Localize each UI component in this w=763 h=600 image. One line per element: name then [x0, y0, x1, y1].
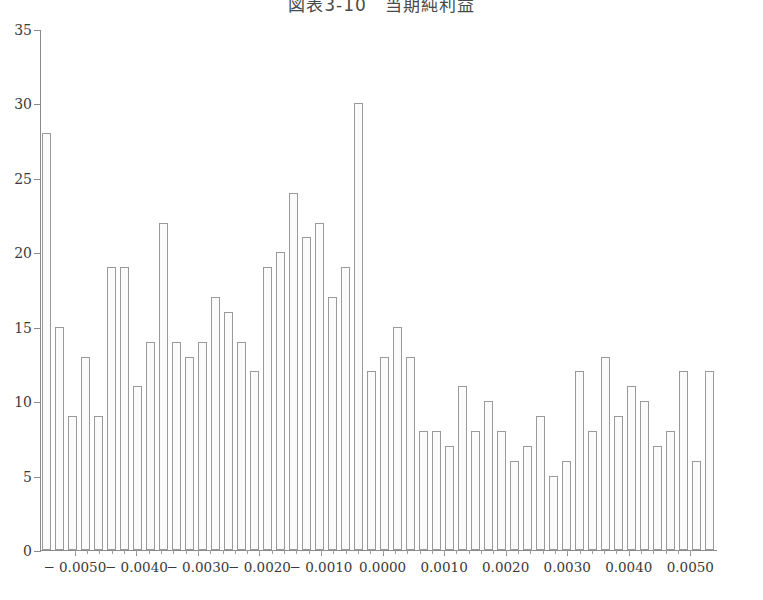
histogram-bar	[237, 342, 246, 550]
histogram-bar	[419, 431, 428, 550]
x-axis-minor-tick	[653, 550, 654, 554]
histogram-bar	[562, 461, 571, 550]
x-axis-minor-tick	[161, 550, 162, 554]
x-axis-label: 0.0020	[482, 561, 529, 575]
y-axis-label: 25	[14, 172, 32, 186]
histogram-bar	[523, 446, 532, 550]
histogram-bar	[601, 357, 610, 551]
x-axis-minor-tick	[198, 550, 199, 554]
chart-title: 図表3-10 当期純利益	[0, 0, 763, 17]
x-axis-minor-tick	[616, 550, 617, 554]
x-axis-minor-tick	[321, 550, 322, 554]
x-axis-label: 0.0010	[420, 561, 467, 575]
histogram-bar	[458, 386, 467, 550]
y-axis-label: 10	[14, 395, 32, 409]
x-axis-minor-tick	[186, 550, 187, 554]
y-axis-label: 15	[14, 321, 32, 335]
histogram-bar	[146, 342, 155, 550]
x-axis-minor-tick	[604, 550, 605, 554]
x-axis-minor-tick	[112, 550, 113, 554]
x-axis-minor-tick	[358, 550, 359, 554]
x-axis-minor-tick	[506, 550, 507, 554]
x-axis-minor-tick	[444, 550, 445, 554]
x-axis-minor-tick	[407, 550, 408, 554]
x-axis-minor-tick	[567, 550, 568, 554]
y-axis-tick	[34, 477, 41, 478]
x-axis-minor-tick	[223, 550, 224, 554]
x-axis-minor-tick	[518, 550, 519, 554]
x-axis-minor-tick	[346, 550, 347, 554]
histogram-bar	[159, 223, 168, 550]
x-axis-label: − 0.0010	[290, 561, 353, 575]
histogram-bar	[211, 297, 220, 550]
y-axis-label: 30	[14, 97, 32, 111]
x-axis-minor-tick	[666, 550, 667, 554]
histogram-bar	[185, 357, 194, 551]
histogram-bar	[653, 446, 662, 550]
histogram-bar	[549, 476, 558, 550]
x-axis-minor-tick	[99, 550, 100, 554]
y-axis-tick	[34, 402, 41, 403]
x-axis-minor-tick	[383, 550, 384, 554]
x-axis-minor-tick	[210, 550, 211, 554]
x-axis-minor-tick	[87, 550, 88, 554]
histogram-bar	[536, 416, 545, 550]
x-axis-label: 0.0000	[359, 561, 406, 575]
x-axis-label: − 0.0030	[167, 561, 230, 575]
histogram-bar	[263, 267, 272, 550]
histogram-bar	[393, 327, 402, 550]
y-axis-tick	[34, 551, 41, 552]
x-axis-minor-tick	[690, 550, 691, 554]
histogram-bar	[692, 461, 701, 550]
histogram-bar	[406, 357, 415, 551]
x-axis-label: 0.0050	[667, 561, 714, 575]
histogram-bar	[224, 312, 233, 550]
histogram-bar	[666, 431, 675, 550]
x-axis-minor-tick	[420, 550, 421, 554]
x-axis-minor-tick	[432, 550, 433, 554]
histogram-bar	[276, 252, 285, 550]
y-axis-tick	[34, 104, 41, 105]
plot-area: 05101520253035 − 0.0050− 0.0040− 0.0030−…	[40, 30, 717, 551]
x-axis-minor-tick	[173, 550, 174, 554]
x-axis-minor-tick	[370, 550, 371, 554]
y-axis-tick	[34, 30, 41, 31]
histogram-chart: 図表3-10 当期純利益 05101520253035 − 0.0050− 0.…	[0, 0, 763, 600]
y-axis-label: 0	[23, 544, 32, 558]
histogram-bar	[705, 371, 714, 550]
x-axis-label: − 0.0040	[105, 561, 168, 575]
x-axis-minor-tick	[592, 550, 593, 554]
x-axis-label: − 0.0050	[43, 561, 106, 575]
x-axis-minor-tick	[136, 550, 137, 554]
x-axis-minor-tick	[678, 550, 679, 554]
y-axis-label: 5	[23, 470, 32, 484]
histogram-bar	[81, 357, 90, 551]
histogram-bar	[510, 461, 519, 550]
x-axis-label: 0.0040	[605, 561, 652, 575]
x-axis-minor-tick	[629, 550, 630, 554]
x-axis-label: 0.0030	[544, 561, 591, 575]
histogram-bar	[55, 327, 64, 550]
x-axis-minor-tick	[296, 550, 297, 554]
histogram-bar	[367, 371, 376, 550]
histogram-bar	[302, 237, 311, 550]
x-axis-minor-tick	[456, 550, 457, 554]
histogram-bar	[679, 371, 688, 550]
x-axis-minor-tick	[235, 550, 236, 554]
histogram-bar	[68, 416, 77, 550]
x-axis-minor-tick	[124, 550, 125, 554]
x-axis-minor-tick	[481, 550, 482, 554]
x-axis-minor-tick	[493, 550, 494, 554]
histogram-bar	[471, 431, 480, 550]
histogram-bar	[614, 416, 623, 550]
x-axis-minor-tick	[272, 550, 273, 554]
x-axis-minor-tick	[149, 550, 150, 554]
x-axis-label: − 0.0020	[228, 561, 291, 575]
histogram-bar	[432, 431, 441, 550]
histogram-bar	[627, 386, 636, 550]
histogram-bar	[354, 103, 363, 550]
histogram-bar	[172, 342, 181, 550]
x-axis-minor-tick	[543, 550, 544, 554]
x-axis-minor-tick	[641, 550, 642, 554]
y-axis-tick	[34, 179, 41, 180]
